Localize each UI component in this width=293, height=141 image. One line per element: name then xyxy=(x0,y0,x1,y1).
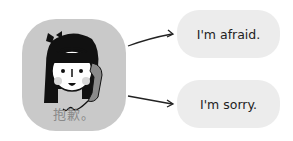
option-label: I'm sorry. xyxy=(200,97,257,112)
option-label: I'm afraid. xyxy=(197,27,261,42)
option-bubble-afraid[interactable]: I'm afraid. xyxy=(177,10,280,58)
option-bubble-sorry[interactable]: I'm sorry. xyxy=(177,80,280,128)
